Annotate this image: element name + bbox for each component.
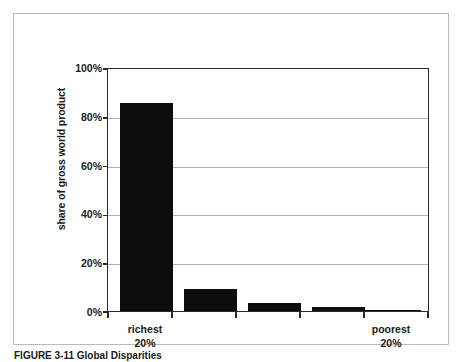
bar-chart: share of gross world product 100% 80% 60…: [14, 14, 450, 346]
bar-quintile-2: [184, 289, 237, 311]
x-tick-mark-5: [427, 312, 429, 318]
y-tick-label-20: 20%: [60, 258, 102, 269]
y-tick-label-80: 80%: [60, 112, 102, 123]
x-label-poorest-line2: 20%: [336, 336, 446, 350]
y-tick-label-0: 0%: [60, 307, 102, 318]
x-label-poorest-line1: poorest: [336, 322, 446, 336]
x-label-poorest: poorest 20%: [336, 322, 446, 350]
x-label-richest-line1: richest: [90, 322, 200, 336]
x-axis-tick-marks: [107, 312, 429, 320]
figure-frame: share of gross world product 100% 80% 60…: [13, 13, 449, 345]
bar-poorest-20: [364, 310, 421, 312]
bars-layer: [108, 69, 428, 311]
y-tick-label-60: 60%: [60, 161, 102, 172]
x-label-richest: richest 20%: [90, 322, 200, 350]
y-tick-label-40: 40%: [60, 209, 102, 220]
plot-area: [107, 68, 429, 312]
y-axis-tick-labels: 100% 80% 60% 40% 20% 0%: [58, 14, 102, 346]
y-tick-label-100: 100%: [60, 63, 102, 74]
x-tick-mark-2: [235, 312, 237, 318]
bar-quintile-4: [312, 307, 365, 311]
bar-richest-20: [120, 103, 173, 311]
x-tick-mark-0: [107, 312, 109, 318]
x-tick-mark-4: [363, 312, 365, 318]
bar-quintile-3: [248, 303, 301, 311]
x-tick-mark-1: [171, 312, 173, 318]
figure-caption: FIGURE 3-11 Global Disparities: [14, 350, 454, 362]
x-label-richest-line2: 20%: [90, 336, 200, 350]
x-tick-mark-3: [299, 312, 301, 318]
